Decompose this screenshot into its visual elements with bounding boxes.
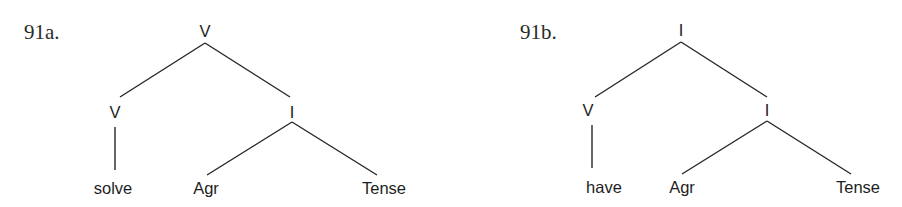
edge-root-to-right — [205, 43, 290, 97]
leaf-tense: Tense — [836, 179, 880, 196]
node-root: I — [679, 22, 684, 39]
leaf-left: solve — [94, 180, 133, 197]
tree-91a-edges — [115, 43, 377, 175]
node-right-child: I — [765, 102, 770, 119]
edge-right-to-tense — [767, 121, 851, 174]
edge-root-to-left — [595, 42, 681, 97]
node-root: V — [199, 23, 210, 40]
tree-91b-edges — [592, 42, 851, 174]
example-label: 91b. — [520, 22, 557, 43]
edge-root-to-right — [681, 42, 767, 97]
leaf-left: have — [586, 179, 622, 196]
leaf-agr: Agr — [669, 179, 695, 196]
edge-root-to-left — [120, 43, 205, 97]
leaf-tense: Tense — [362, 180, 406, 197]
node-left-child: V — [582, 102, 593, 119]
edge-right-to-tense — [292, 122, 377, 175]
example-label: 91a. — [24, 22, 60, 43]
node-left-child: V — [109, 104, 120, 121]
edge-right-to-agr — [207, 122, 292, 175]
leaf-agr: Agr — [193, 180, 219, 197]
edge-right-to-agr — [682, 121, 767, 174]
node-right-child: I — [290, 104, 295, 121]
